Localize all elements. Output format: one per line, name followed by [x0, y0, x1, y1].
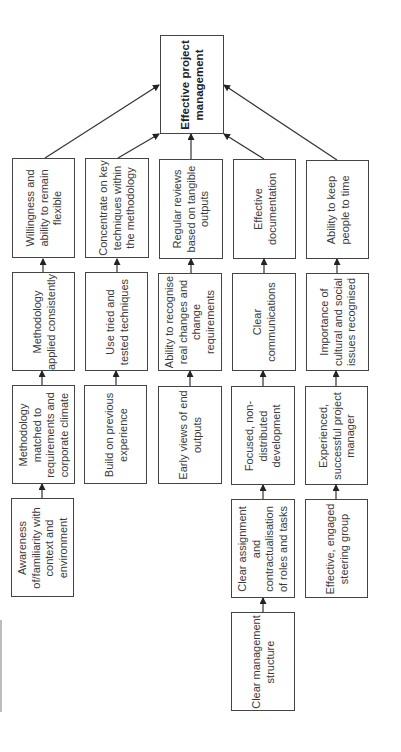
node-label: Build on previous experience	[102, 387, 129, 483]
node-label: Concentrate on key techniques within the…	[97, 160, 138, 256]
node-concentrate-techniques: Concentrate on key techniques within the…	[85, 158, 149, 258]
node-label: Clear management structure	[250, 614, 277, 710]
node-label: Methodology matched to requirements and …	[17, 387, 71, 483]
node-label: Willingness and ability to remain flexib…	[23, 160, 64, 256]
node-methodology-applied: Methodology applied consistently	[12, 272, 75, 371]
node-keep-people-to-time: Ability to keep people to time	[306, 160, 369, 259]
node-clear-communications: Clear communications	[232, 273, 296, 371]
node-awareness-context: Awareness of/familiarity with context an…	[11, 498, 74, 597]
node-label: Regular reviews based on tangible output…	[171, 161, 212, 257]
node-label: Clear assignment and contractualisation …	[236, 501, 290, 597]
node-label: Effective, engaged steering group	[323, 501, 350, 597]
node-clear-management-structure: Clear management structure	[231, 612, 295, 711]
node-cultural-social-issues: Importance of cultural and social issues…	[306, 273, 369, 371]
goal-box-effective-project-management: Effective project management	[160, 35, 224, 134]
node-label: Experienced, successful project manager	[316, 388, 357, 484]
node-focused-development: Focused, non-distributed development	[231, 386, 295, 485]
node-label: Awareness of/familiarity with context an…	[16, 500, 70, 596]
node-clear-assignment: Clear assignment and contractualisation …	[231, 499, 295, 598]
node-label: Focused, non-distributed development	[243, 388, 284, 484]
node-label: Ability to recognise real changes and ch…	[163, 274, 217, 370]
node-label: Early views of end outputs	[177, 387, 204, 483]
node-tried-tested: Use tried and tested techniques	[85, 272, 148, 371]
node-steering-group: Effective, engaged steering group	[305, 499, 368, 598]
node-label: Importance of cultural and social issues…	[317, 274, 358, 370]
node-experienced-manager: Experienced, successful project manager	[305, 386, 368, 485]
flowchart-diagram: Effective project management Willingness…	[0, 0, 401, 752]
node-label: Ability to keep people to time	[324, 162, 351, 258]
node-label: Clear communications	[251, 274, 278, 370]
node-regular-reviews: Regular reviews based on tangible output…	[159, 159, 223, 259]
scan-edge-divider	[0, 620, 2, 712]
node-build-experience: Build on previous experience	[84, 385, 147, 484]
node-early-views: Early views of end outputs	[158, 386, 222, 484]
node-recognise-changes: Ability to recognise real changes and ch…	[158, 273, 222, 371]
node-methodology-matched: Methodology matched to requirements and …	[12, 385, 75, 484]
node-label: Methodology applied consistently	[30, 274, 57, 370]
node-willingness-flexible: Willingness and ability to remain flexib…	[12, 158, 75, 258]
node-effective-documentation: Effective documentation	[233, 159, 296, 259]
node-label: Effective documentation	[251, 161, 278, 257]
goal-label: Effective project management	[178, 37, 206, 133]
node-label: Use tried and tested techniques	[103, 274, 130, 370]
